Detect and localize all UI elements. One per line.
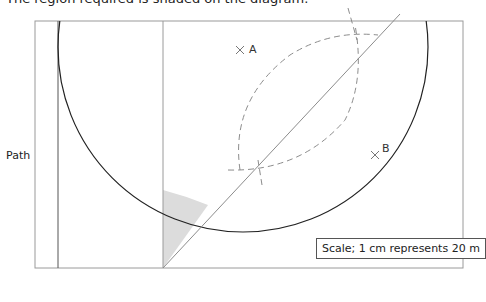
locus-circle	[58, 0, 428, 232]
scale-box: Scale; 1 cm represents 20 m	[316, 238, 486, 259]
point-a-label: A	[249, 43, 257, 56]
construction-arcs	[228, 8, 378, 185]
cross-mark-icon	[371, 151, 379, 159]
map-frame	[35, 21, 463, 268]
point-b-label: B	[382, 142, 390, 155]
path-label: Path	[6, 149, 30, 162]
perpendicular-bisector	[163, 14, 400, 268]
shaded-region	[163, 190, 208, 268]
cross-mark-icon	[236, 46, 244, 54]
